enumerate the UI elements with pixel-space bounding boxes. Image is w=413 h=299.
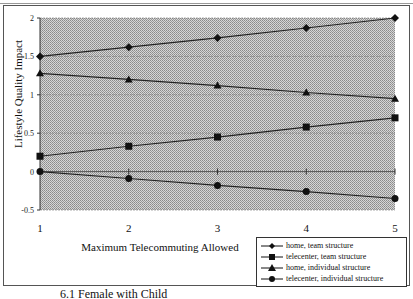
- svg-text:1: 1: [37, 222, 43, 234]
- legend-label: telecenter, team structure: [286, 251, 366, 262]
- legend-label: telecenter, individual structure: [286, 273, 383, 284]
- legend-item: telecenter, team structure: [261, 251, 402, 262]
- svg-text:2: 2: [30, 14, 34, 23]
- svg-text:4: 4: [304, 222, 310, 234]
- svg-text:5: 5: [392, 222, 398, 234]
- square-marker-icon: [261, 253, 283, 261]
- legend-item: home, individual structure: [261, 262, 402, 273]
- svg-text:2: 2: [126, 222, 132, 234]
- legend-item: home, team structure: [261, 240, 402, 251]
- svg-text:-0.5: -0.5: [21, 206, 34, 215]
- triangle-marker-icon: [261, 264, 283, 272]
- legend-label: home, team structure: [286, 240, 353, 251]
- legend-label: home, individual structure: [286, 262, 370, 273]
- svg-text:0: 0: [30, 168, 34, 177]
- svg-text:0.5: 0.5: [24, 129, 34, 138]
- legend: home, team structure telecenter, team st…: [256, 237, 407, 287]
- svg-text:3: 3: [215, 222, 221, 234]
- svg-text:1: 1: [30, 91, 34, 100]
- legend-item: telecenter, individual structure: [261, 273, 402, 284]
- y-axis-label: Lifestyle Quality Impact: [12, 34, 24, 154]
- diamond-marker-icon: [261, 242, 283, 250]
- figure-caption: 6.1 Female with Child: [60, 287, 167, 299]
- x-axis-label: Maximum Telecommuting Allowed: [60, 241, 260, 253]
- svg-text:1.5: 1.5: [24, 52, 34, 61]
- circle-marker-icon: [261, 275, 283, 283]
